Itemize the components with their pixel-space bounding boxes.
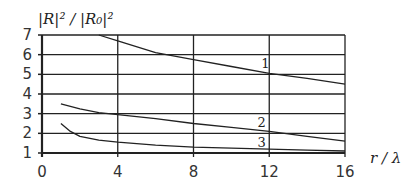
x-axis-label: r / λ [370,149,401,167]
x-tick-label: 8 [189,163,199,181]
x-tick-label: 16 [335,163,354,181]
y-tick-label: 1 [22,144,32,162]
y-tick-label: 2 [22,124,32,142]
curve-1 [99,35,345,84]
y-tick-label: 4 [22,85,32,103]
curve-3 [61,124,345,152]
curve-2 [61,104,345,141]
x-tick-label: 12 [260,163,279,181]
y-tick-label: 7 [22,26,32,44]
x-tick-label: 0 [37,163,47,181]
curve-label-1: 1 [261,56,269,71]
curve-label-3: 3 [258,135,266,150]
x-tick-label: 4 [113,163,123,181]
curve-label-2: 2 [258,115,266,130]
y-tick-label: 6 [22,46,32,64]
y-axis-label: |R|² / |R₀|² [38,10,113,28]
y-tick-label: 5 [22,65,32,83]
line-chart: 12345670481216123|R|² / |R₀|²r / λ [0,0,409,188]
y-tick-label: 3 [22,105,32,123]
